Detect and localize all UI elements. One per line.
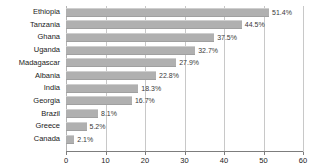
bar-row: 27.9% [66, 57, 303, 70]
bar-value-label: 22.8% [159, 70, 179, 81]
category-label-georgia: Georgia [0, 95, 63, 108]
bar[interactable] [66, 33, 214, 42]
bar[interactable] [66, 8, 269, 17]
tick-label-50: 50 [259, 155, 267, 166]
x-axis-ticks: 0102030405060 [66, 152, 303, 168]
bar-row: 37.5% [66, 31, 303, 44]
bar-row: 51.4% [66, 6, 303, 19]
category-label-canada: Canada [0, 133, 63, 146]
category-label-brazil: Brazil [0, 108, 63, 121]
bar-value-label: 5.2% [90, 121, 106, 132]
category-label-ghana: Ghana [0, 31, 63, 44]
category-label-india: India [0, 82, 63, 95]
category-label-tanzania: Tanzania [0, 19, 63, 32]
bar-row: 22.8% [66, 70, 303, 83]
bar[interactable] [66, 135, 74, 144]
bar-row: 8.1% [66, 108, 303, 121]
bar-row: 32.7% [66, 44, 303, 57]
tick-label-60: 60 [299, 155, 307, 166]
bar[interactable] [66, 96, 132, 105]
bar-value-label: 32.7% [198, 45, 218, 56]
tick-label-0: 0 [64, 155, 68, 166]
gridline-60 [303, 6, 304, 152]
bar[interactable] [66, 58, 176, 67]
bar-value-label: 51.4% [272, 7, 292, 18]
plot-area: 51.4%44.5%37.5%32.7%27.9%22.8%18.3%16.7%… [66, 6, 303, 152]
bar[interactable] [66, 122, 87, 131]
category-label-madagascar: Madagascar [0, 57, 63, 70]
bar-row: 44.5% [66, 19, 303, 32]
category-axis-labels: EthiopiaTanzaniaGhanaUgandaMadagascarAlb… [0, 6, 63, 152]
tick-label-10: 10 [101, 155, 109, 166]
tick-label-20: 20 [141, 155, 149, 166]
bar[interactable] [66, 84, 138, 93]
tick-label-40: 40 [220, 155, 228, 166]
bar[interactable] [66, 71, 156, 80]
bar-chart: EthiopiaTanzaniaGhanaUgandaMadagascarAlb… [0, 0, 309, 168]
tick-label-30: 30 [180, 155, 188, 166]
bar-value-label: 44.5% [245, 19, 265, 30]
bar-row: 18.3% [66, 82, 303, 95]
bar-row: 16.7% [66, 95, 303, 108]
bar-value-label: 2.1% [77, 134, 93, 145]
category-label-uganda: Uganda [0, 44, 63, 57]
bar-row: 2.1% [66, 133, 303, 146]
bar-value-label: 8.1% [101, 108, 117, 119]
bar-value-label: 16.7% [135, 95, 155, 106]
bar[interactable] [66, 109, 98, 118]
bar[interactable] [66, 46, 195, 55]
category-label-greece: Greece [0, 120, 63, 133]
bar-value-label: 18.3% [141, 83, 161, 94]
bar-value-label: 37.5% [217, 32, 237, 43]
bar-row: 5.2% [66, 120, 303, 133]
category-label-albania: Albania [0, 70, 63, 83]
category-label-ethiopia: Ethiopia [0, 6, 63, 19]
bar[interactable] [66, 20, 242, 29]
bar-value-label: 27.9% [179, 57, 199, 68]
bar-rows: 51.4%44.5%37.5%32.7%27.9%22.8%18.3%16.7%… [66, 6, 303, 152]
